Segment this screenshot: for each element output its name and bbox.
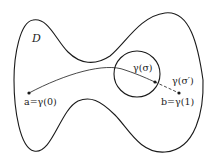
start-point-label: a=γ(0) <box>24 97 57 107</box>
point-a <box>27 91 30 94</box>
point-b <box>177 91 180 94</box>
sigma-point-label: γ(σ) <box>133 63 153 73</box>
end-point-label: b=γ(1) <box>161 97 194 107</box>
point-gamma-sigma <box>153 80 156 83</box>
sigma-prime-point-label: γ(σ′) <box>172 76 194 86</box>
region-label: D <box>32 33 41 44</box>
